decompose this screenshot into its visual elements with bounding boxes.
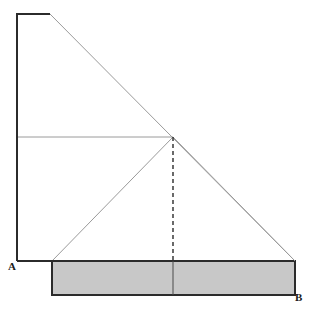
- geometry-canvas: [0, 0, 312, 314]
- vertex-label-b: B: [295, 292, 302, 303]
- right-diagonal-line: [173, 137, 295, 261]
- geometry-diagram: A B: [0, 0, 312, 314]
- left-diagonal-line: [52, 137, 173, 261]
- vertex-label-a: A: [8, 261, 16, 272]
